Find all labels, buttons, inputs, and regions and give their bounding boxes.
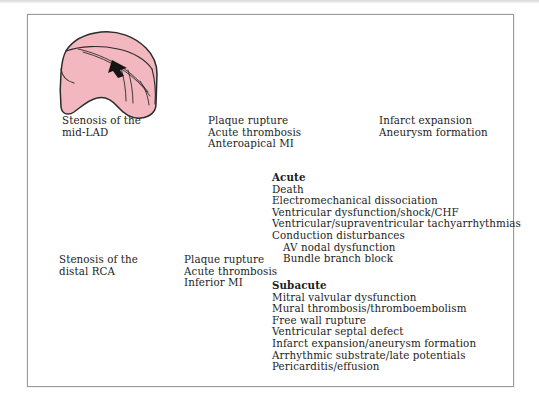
acute-item-4: Conduction disturbances [272, 230, 521, 242]
subacute-item-4: Infarct expansion/aneurysm formation [272, 338, 476, 350]
myocardial-infarction-figure: .pink { fill: #f3b8bf; } .mauve { fill: … [0, 0, 539, 404]
subacute-complications-list: Subacute Mitral valvular dysfunction Mur… [272, 280, 476, 373]
subacute-item-6: Pericarditis/effusion [272, 361, 476, 373]
caption-stenosis-rca: Stenosis of the distal RCA [59, 254, 138, 277]
caption-plaque-rupture-anterior: Plaque rupture Acute thrombosis Anteroap… [208, 115, 301, 150]
caption-infarct-expansion: Infarct expansion Aneurysm formation [379, 115, 488, 138]
caption-plaque-rupture-inferior: Plaque rupture Acute thrombosis Inferior… [184, 254, 277, 289]
acute-complications-list: Acute Death Electromechanical dissociati… [272, 172, 521, 265]
heart-ventricle-icon [60, 32, 157, 118]
acute-item-6: Bundle branch block [272, 253, 521, 265]
caption-stenosis-lad: Stenosis of the mid-LAD [62, 115, 141, 138]
acute-heading: Acute [272, 172, 521, 184]
subacute-heading: Subacute [272, 280, 476, 292]
